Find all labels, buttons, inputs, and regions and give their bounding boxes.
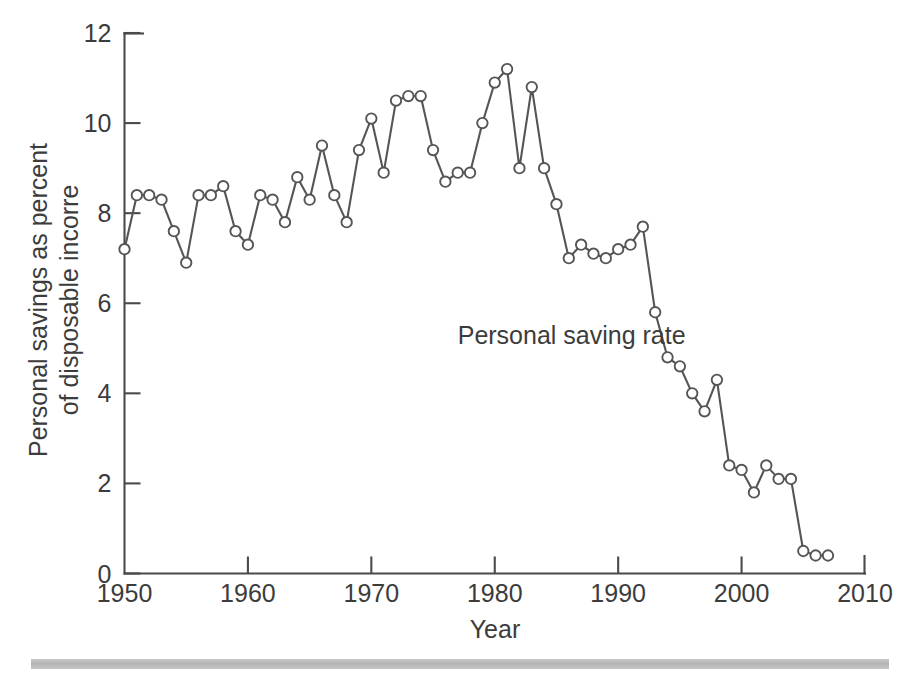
x-tick-label-2010: 2010 xyxy=(837,579,893,607)
data-point xyxy=(810,550,820,560)
data-point xyxy=(132,190,142,200)
data-point xyxy=(638,221,648,231)
data-point xyxy=(749,487,759,497)
data-point xyxy=(823,550,833,560)
data-point xyxy=(687,388,697,398)
data-point xyxy=(341,217,351,227)
data-point xyxy=(243,240,253,250)
personal-saving-rate-line-chart: 024681012 1950196019701980199020002010 P… xyxy=(0,0,898,680)
series-annotation-label: Personal saving rate xyxy=(458,321,686,349)
data-point xyxy=(712,375,722,385)
x-tick-label-1970: 1970 xyxy=(344,579,400,607)
data-point xyxy=(304,194,314,204)
data-point xyxy=(650,307,660,317)
data-point xyxy=(625,240,635,250)
data-point xyxy=(588,249,598,259)
x-tick-label-2000: 2000 xyxy=(714,579,770,607)
data-point xyxy=(193,190,203,200)
y-axis-title-line1: Personal savings as percent xyxy=(24,143,52,457)
data-point xyxy=(169,226,179,236)
data-point xyxy=(773,474,783,484)
data-point xyxy=(255,190,265,200)
data-point xyxy=(539,163,549,173)
data-point xyxy=(477,118,487,128)
data-point xyxy=(613,244,623,254)
data-series-group xyxy=(119,64,833,561)
data-point xyxy=(601,253,611,263)
data-point xyxy=(280,217,290,227)
saving-rate-line xyxy=(125,69,828,555)
y-axis-group: 024681012 xyxy=(84,19,141,588)
x-tick-label-1980: 1980 xyxy=(467,579,523,607)
x-axis-title: Year xyxy=(470,615,521,643)
y-tick-label-12: 12 xyxy=(84,19,112,47)
data-point xyxy=(144,190,154,200)
data-point xyxy=(576,240,586,250)
data-point xyxy=(564,253,574,263)
data-point xyxy=(761,460,771,470)
y-tick-group xyxy=(125,33,141,574)
data-point xyxy=(527,82,537,92)
y-tick-label-10: 10 xyxy=(84,109,112,137)
x-tick-group xyxy=(248,557,742,574)
data-point xyxy=(317,140,327,150)
data-point xyxy=(156,194,166,204)
y-tick-label-6: 6 xyxy=(98,289,112,317)
data-point xyxy=(218,181,228,191)
data-point xyxy=(292,172,302,182)
data-point xyxy=(490,77,500,87)
x-tick-label-1960: 1960 xyxy=(220,579,276,607)
data-point xyxy=(403,91,413,101)
data-point xyxy=(551,199,561,209)
data-point xyxy=(119,244,129,254)
data-point xyxy=(675,361,685,371)
y-tick-label-8: 8 xyxy=(98,199,112,227)
y-tick-label-2: 2 xyxy=(98,469,112,497)
data-point xyxy=(366,113,376,123)
data-point xyxy=(724,460,734,470)
data-point xyxy=(329,190,339,200)
data-point xyxy=(428,145,438,155)
data-point xyxy=(440,176,450,186)
data-point xyxy=(416,91,426,101)
footer-rule-bar xyxy=(31,659,889,669)
data-point xyxy=(206,190,216,200)
data-point xyxy=(502,64,512,74)
data-point xyxy=(267,194,277,204)
y-axis-title-line2: of disposable incorre xyxy=(55,185,83,416)
data-point xyxy=(699,406,709,416)
y-tick-label-4: 4 xyxy=(98,379,112,407)
data-point xyxy=(786,474,796,484)
x-axis-group: 1950196019701980199020002010 xyxy=(97,557,893,607)
chart-figure: 024681012 1950196019701980199020002010 P… xyxy=(0,0,898,680)
data-point xyxy=(181,258,191,268)
data-point xyxy=(378,167,388,177)
data-point xyxy=(453,167,463,177)
x-tick-label-1990: 1990 xyxy=(590,579,646,607)
data-point xyxy=(391,95,401,105)
x-tick-label-1950: 1950 xyxy=(97,579,153,607)
data-point xyxy=(514,163,524,173)
x-tick-label-group: 1950196019701980199020002010 xyxy=(97,579,893,607)
saving-rate-markers xyxy=(119,64,833,561)
data-point xyxy=(465,167,475,177)
data-point xyxy=(662,352,672,362)
data-point xyxy=(736,465,746,475)
y-tick-label-group: 024681012 xyxy=(84,19,112,588)
data-point xyxy=(230,226,240,236)
data-point xyxy=(798,546,808,556)
data-point xyxy=(354,145,364,155)
